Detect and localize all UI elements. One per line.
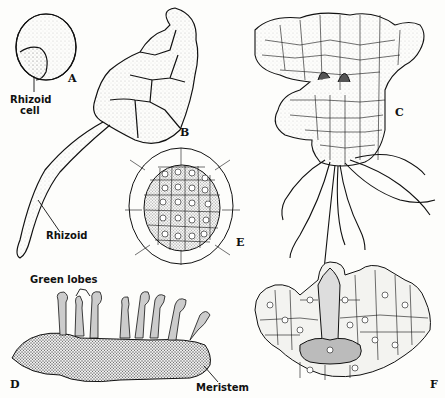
panel-d-drawing [12, 289, 218, 382]
panel-letter-e: E [236, 236, 244, 249]
meristem-label: Meristem [196, 382, 249, 393]
panel-letter-b: B [180, 126, 189, 139]
rhizoid-cell-label: Rhizoid cell [10, 94, 52, 116]
rhizoid-cell-label-line1: Rhizoid [10, 94, 52, 105]
rhizoid-cell-label-line2: cell [10, 105, 52, 116]
panel-letter-d: D [10, 378, 20, 391]
panel-letter-f: F [430, 378, 438, 391]
panel-f-drawing [255, 262, 430, 380]
panel-letter-c: C [395, 106, 404, 119]
rhizoid-label: Rhizoid [46, 230, 88, 241]
panel-a-drawing [16, 14, 76, 92]
panel-c-drawing [255, 13, 435, 285]
botanical-figure: Rhizoid cell Rhizoid Green lobes Meriste… [0, 0, 445, 398]
figure-drawing [0, 0, 445, 398]
green-lobes-label: Green lobes [30, 274, 98, 285]
panel-letter-a: A [68, 72, 77, 85]
panel-e-drawing [125, 148, 240, 265]
